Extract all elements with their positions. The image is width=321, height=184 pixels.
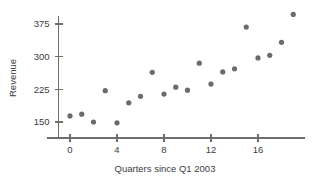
data-point <box>173 85 178 90</box>
y-axis: 150225300375 <box>34 16 63 138</box>
data-point <box>185 88 190 93</box>
data-point <box>91 119 96 124</box>
data-point <box>255 55 260 60</box>
data-point <box>244 24 249 29</box>
x-tick-label: 0 <box>67 144 72 155</box>
x-tick-label: 8 <box>161 144 166 155</box>
data-point <box>267 53 272 58</box>
x-axis: 0481216 <box>47 134 306 155</box>
data-point <box>150 70 155 75</box>
data-point <box>161 92 166 97</box>
y-tick-label: 150 <box>34 116 50 127</box>
data-point <box>208 82 213 87</box>
scatter-plot-figure: 150225300375 0481216 Revenue Quarters si… <box>0 0 321 184</box>
y-tick-label: 300 <box>34 51 50 62</box>
data-point <box>126 100 131 105</box>
data-point <box>220 69 225 74</box>
y-tick-label: 225 <box>34 84 50 95</box>
data-points-layer <box>67 12 295 126</box>
x-tick-label: 4 <box>114 144 119 155</box>
y-axis-title: Revenue <box>7 59 18 97</box>
x-axis-title: Quarters since Q1 2003 <box>115 163 216 174</box>
x-tick-label: 16 <box>253 144 264 155</box>
data-point <box>79 112 84 117</box>
data-point <box>232 66 237 71</box>
data-point <box>114 120 119 125</box>
data-point <box>197 61 202 66</box>
plot-canvas: 150225300375 0481216 Revenue Quarters si… <box>0 0 321 184</box>
data-point <box>291 12 296 17</box>
data-point <box>67 113 72 118</box>
data-point <box>103 88 108 93</box>
data-point <box>279 40 284 45</box>
data-point <box>138 94 143 99</box>
x-tick-label: 12 <box>206 144 217 155</box>
y-tick-label: 375 <box>34 18 50 29</box>
